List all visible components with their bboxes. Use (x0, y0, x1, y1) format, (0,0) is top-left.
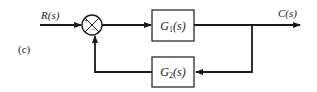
output-label: C(s) (278, 8, 297, 19)
feedback-branch-arrow (196, 25, 252, 72)
block-diagram: R(s) C(s) (c) + − G1(s) G2(s) (0, 0, 317, 92)
g2-label: G2(s) (152, 66, 194, 80)
g1-arg: (s) (173, 19, 186, 33)
panel-label: (c) (18, 44, 30, 55)
feedback-return-arrow (95, 36, 152, 72)
g1-label: G1(s) (152, 20, 194, 34)
g2-arg: (s) (173, 65, 186, 79)
input-label: R(s) (41, 10, 59, 21)
plus-sign: + (84, 17, 89, 25)
g1-name: G (160, 19, 169, 33)
minus-sign: − (91, 26, 96, 34)
output-label-text: C(s) (278, 7, 297, 19)
g2-name: G (160, 65, 169, 79)
